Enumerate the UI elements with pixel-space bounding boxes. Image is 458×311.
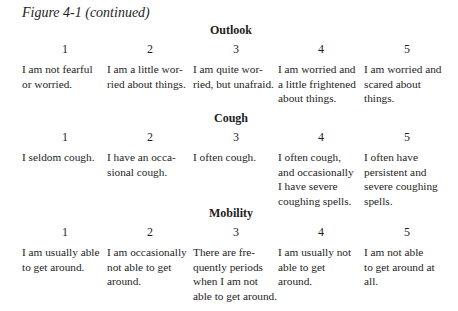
section-mobility: Mobility 1I am usually able to get aroun… [0, 206, 458, 220]
figure-title: Figure 4-1 (continued) [22, 5, 150, 21]
scale-item: 4I often cough, and occasionally I have … [278, 125, 364, 208]
scale-number: 4 [278, 225, 364, 239]
section-outlook: Outlook 1I am not fearful or worried. 2I… [0, 23, 458, 37]
scale-description: I am not able to get around at all. [364, 245, 450, 289]
scale-item: 2I am occasionally not able to get aroun… [107, 220, 193, 289]
scale-item: 5I am not able to get around at all. [364, 220, 450, 289]
scale-number: 5 [364, 42, 450, 56]
scale-item: 2I am a little wor- ried about things. [107, 37, 193, 91]
scale-description: I often cough, and occasionally I have s… [278, 150, 364, 208]
scale-description: I often have persistent and severe cough… [364, 150, 450, 208]
scale-number: 5 [364, 130, 450, 144]
scale-description: I am usually not able to get around. [278, 245, 364, 289]
scale-number: 2 [107, 225, 193, 239]
scale-number: 1 [22, 225, 108, 239]
section-heading: Mobility [0, 206, 458, 220]
scale-number: 4 [278, 42, 364, 56]
scale-number: 4 [278, 130, 364, 144]
scale-description: I am worried and a little frightened abo… [278, 62, 364, 106]
scale-number: 3 [193, 225, 279, 239]
scale-item: 4I am worried and a little frightened ab… [278, 37, 364, 106]
scale-description: I am occasionally not able to get around… [107, 245, 193, 289]
scale-number: 2 [107, 130, 193, 144]
scale-number: 1 [22, 42, 108, 56]
scale-description: I am not fearful or worried. [22, 62, 108, 91]
scale-description: I am quite wor- ried, but unafraid. [193, 62, 279, 91]
scale-item: 2I have an occa- sional cough. [107, 125, 193, 179]
scale-item: 1I am usually able to get around. [22, 220, 108, 274]
scale-item: 5I often have persistent and severe coug… [364, 125, 450, 208]
scale-description: I have an occa- sional cough. [107, 150, 193, 179]
scale-description: I am worried and scared about things. [364, 62, 450, 106]
scale-item: 3I often cough. [193, 125, 279, 165]
scale-description: I am a little wor- ried about things. [107, 62, 193, 91]
scale-item: 5I am worried and scared about things. [364, 37, 450, 106]
scale-number: 5 [364, 225, 450, 239]
scale-description: I often cough. [193, 150, 279, 165]
section-heading: Cough [0, 111, 458, 125]
scale-item: 3There are fre- quently periods when I a… [193, 220, 279, 303]
section-cough: Cough 1I seldom cough. 2I have an occa- … [0, 111, 458, 125]
scale-description: I seldom cough. [22, 150, 108, 165]
scale-number: 3 [193, 130, 279, 144]
scale-number: 3 [193, 42, 279, 56]
scale-item: 3I am quite wor- ried, but unafraid. [193, 37, 279, 91]
scale-number: 2 [107, 42, 193, 56]
scale-item: 1I seldom cough. [22, 125, 108, 165]
scale-number: 1 [22, 130, 108, 144]
section-heading: Outlook [0, 23, 458, 37]
scale-item: 4I am usually not able to get around. [278, 220, 364, 289]
scale-description: I am usually able to get around. [22, 245, 108, 274]
scale-description: There are fre- quently periods when I am… [193, 245, 279, 303]
scale-item: 1I am not fearful or worried. [22, 37, 108, 91]
